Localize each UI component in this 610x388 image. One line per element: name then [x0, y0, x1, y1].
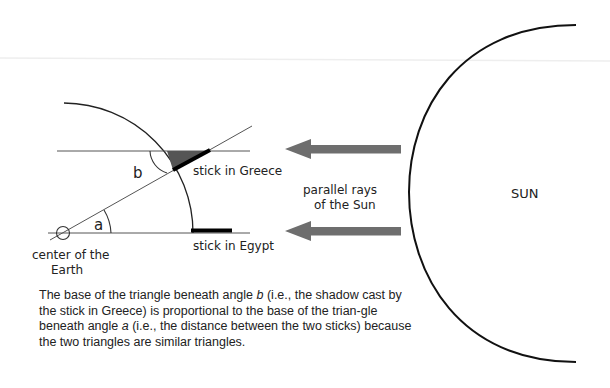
sun-ray-arrow-lower	[285, 221, 401, 241]
earth-center-label-line1: center of the	[32, 248, 110, 262]
angle-b-label: b	[133, 164, 143, 182]
explanation-caption: The base of the triangle beneath angle b…	[39, 288, 419, 350]
radius-line-greece	[50, 126, 252, 240]
stick-egypt	[191, 229, 232, 233]
angle-a-label: a	[94, 216, 103, 234]
earth-center-label-line2: Earth	[51, 263, 83, 277]
caption-part1: The base of the triangle beneath angle	[39, 288, 257, 302]
sun-rays-label-line1: parallel rays	[303, 183, 377, 197]
stick-egypt-label: stick in Egypt	[193, 239, 274, 253]
angle-a-arc	[104, 210, 111, 233]
stick-greece-label: stick in Greece	[193, 164, 282, 178]
caption-var-a: a	[122, 319, 129, 333]
sun-arc	[409, 25, 576, 362]
angle-b-arc	[150, 151, 167, 173]
arrow-left-icon	[285, 221, 401, 241]
arrow-left-icon	[285, 139, 401, 159]
sun-label: SUN	[511, 186, 539, 201]
sun-ray-arrow-upper	[285, 139, 401, 159]
sun-rays-label-line2: of the Sun	[314, 198, 376, 212]
scan-artifact-line	[0, 58, 610, 61]
